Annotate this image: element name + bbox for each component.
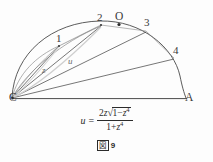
caption-fig-char: 図 [97,140,109,151]
formula-numerator: 2z√1−z4 [97,107,133,119]
formula-block: u = 2z√1−z4 1+z4 [0,107,213,133]
point-label-O: O [115,11,123,23]
point-dot-1 [58,45,60,47]
point-label-4: 4 [173,45,179,56]
chord-2-3 [101,25,146,31]
radical-group: √1−z4 [108,107,131,119]
chord-3-4 [146,31,174,58]
main-arc [12,21,186,98]
chord-C-3 [12,32,146,98]
point-label-A: A [185,92,193,104]
radicand-exponent: 4 [126,106,129,113]
segment-label-z: z [42,66,46,75]
point-label-3: 3 [144,17,150,28]
point-label-C: C [9,92,17,104]
den-exponent: 4 [120,120,123,127]
radicand: 1−z4 [112,107,131,118]
formula-lhs: u [80,115,85,126]
point-dot-O [117,23,120,26]
formula-fraction: 2z√1−z4 1+z4 [97,107,133,133]
figure-9-container: C A O 1 2 3 4 z u u = 2z√1−z4 1+z4 図9 [0,0,213,162]
point-label-1: 1 [56,33,62,44]
point-dot-2 [100,24,102,26]
figure-caption: 図9 [0,140,213,151]
segment-label-u: u [68,57,73,66]
caption-number: 9 [111,141,116,150]
point-label-2: 2 [97,12,103,23]
formula-equals: = [87,115,95,126]
geometry-diagram [0,0,213,162]
formula-denominator: 1+z4 [104,121,125,133]
